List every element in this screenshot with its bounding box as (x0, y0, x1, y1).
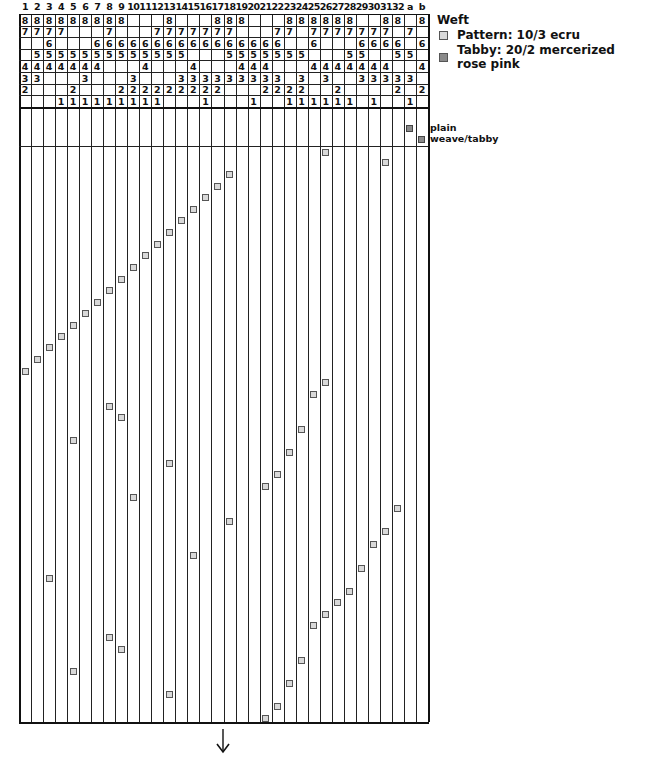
column-number: 9 (115, 1, 127, 12)
pattern-mark (106, 287, 113, 294)
tieup-cell: 8 (211, 15, 223, 26)
tieup-cell: 8 (67, 15, 79, 26)
pattern-mark (298, 657, 305, 664)
pattern-mark (190, 552, 197, 559)
tieup-cell: 7 (320, 26, 332, 37)
tieup-cell: 7 (103, 26, 115, 37)
tieup-cell: 5 (115, 49, 127, 60)
tieup-cell: 1 (248, 96, 260, 107)
tieup-cell: 2 (187, 84, 199, 95)
tieup-cell: 7 (308, 26, 320, 37)
tieup-cell: 4 (91, 61, 103, 72)
tieup-cell: 3 (368, 73, 380, 84)
tieup-cell: 3 (380, 73, 392, 84)
tieup-cell: 5 (67, 49, 79, 60)
tieup-cell: 5 (79, 49, 91, 60)
grid-vline (392, 14, 393, 722)
tieup-cell: 3 (211, 73, 223, 84)
pattern-mark (154, 241, 161, 248)
grid-vline (260, 14, 261, 722)
tieup-cell: 6 (416, 38, 428, 49)
column-number: 26 (320, 1, 332, 12)
tieup-cell: 7 (404, 26, 416, 37)
tieup-cell: 6 (224, 38, 236, 49)
tieup-cell: 3 (260, 73, 272, 84)
pattern-mark (58, 333, 65, 340)
tieup-cell: 7 (43, 26, 55, 37)
tieup-cell: 2 (127, 84, 139, 95)
grid-vline (416, 14, 417, 722)
tieup-cell: 5 (43, 49, 55, 60)
tieup-cell: 3 (236, 73, 248, 84)
grid-vline (368, 14, 369, 722)
tieup-cell: 8 (19, 15, 31, 26)
pattern-mark (298, 426, 305, 433)
tieup-cell: 8 (31, 15, 43, 26)
tieup-cell: 4 (43, 61, 55, 72)
tieup-cell: 6 (236, 38, 248, 49)
tieup-cell: 5 (272, 49, 284, 60)
tieup-cell: 4 (368, 61, 380, 72)
tieup-cell: 4 (187, 61, 199, 72)
tieup-cell: 1 (320, 96, 332, 107)
tieup-cell: 6 (175, 38, 187, 49)
column-number: 22 (272, 1, 284, 12)
grid-vline (103, 14, 104, 722)
column-number: 12 (151, 1, 163, 12)
tieup-cell: 5 (103, 49, 115, 60)
column-number: 13 (163, 1, 175, 12)
pattern-mark (70, 437, 77, 444)
tieup-cell: 8 (55, 15, 67, 26)
grid-vline (308, 14, 309, 722)
column-number: 8 (103, 1, 115, 12)
tieup-cell: 8 (308, 15, 320, 26)
tieup-cell: 3 (79, 73, 91, 84)
tieup-cell: 1 (91, 96, 103, 107)
tieup-cell: 2 (199, 84, 211, 95)
tieup-cell: 4 (139, 61, 151, 72)
tieup-cell: 2 (151, 84, 163, 95)
tieup-cell: 4 (55, 61, 67, 72)
tieup-cell: 7 (211, 26, 223, 37)
tieup-cell: 5 (260, 49, 272, 60)
column-number: 27 (332, 1, 344, 12)
tieup-cell: 3 (127, 73, 139, 84)
tieup-cell: 4 (356, 61, 368, 72)
tabby-swatch-icon (439, 53, 448, 62)
grid-vline (67, 14, 68, 722)
pattern-mark (394, 505, 401, 512)
tieup-cell: 2 (272, 84, 284, 95)
tieup-cell: 6 (260, 38, 272, 49)
tieup-cell: 1 (139, 96, 151, 107)
tieup-cell: 6 (187, 38, 199, 49)
column-number: 1 (19, 1, 31, 12)
tieup-cell: 2 (115, 84, 127, 95)
pattern-mark (214, 183, 221, 190)
tieup-cell: 1 (115, 96, 127, 107)
pattern-mark (118, 414, 125, 421)
grid-vline (344, 14, 345, 722)
tieup-cell: 3 (175, 73, 187, 84)
grid-vline (115, 14, 116, 722)
tieup-cell: 7 (272, 26, 284, 37)
tieup-cell: 1 (151, 96, 163, 107)
column-number: 4 (55, 1, 67, 12)
column-number: 28 (344, 1, 356, 12)
grid-vline (320, 14, 321, 722)
tieup-cell: 2 (67, 84, 79, 95)
column-number: 18 (224, 1, 236, 12)
tieup-cell: 6 (163, 38, 175, 49)
grid-vline (284, 14, 285, 722)
tieup-cell: 5 (296, 49, 308, 60)
tieup-cell: 3 (199, 73, 211, 84)
tieup-cell: 6 (139, 38, 151, 49)
weft-legend: Weft Pattern: 10/3 ecru Tabby: 20/2 merc… (437, 13, 648, 71)
tieup-cell: 4 (332, 61, 344, 72)
tieup-cell: 6 (91, 38, 103, 49)
tabby-label-line2: weave/tabby (430, 133, 498, 144)
tieup-cell: 4 (320, 61, 332, 72)
tieup-cell: 2 (211, 84, 223, 95)
tieup-cell: 5 (404, 49, 416, 60)
tieup-cell: 3 (404, 73, 416, 84)
tieup-cell: 4 (260, 61, 272, 72)
